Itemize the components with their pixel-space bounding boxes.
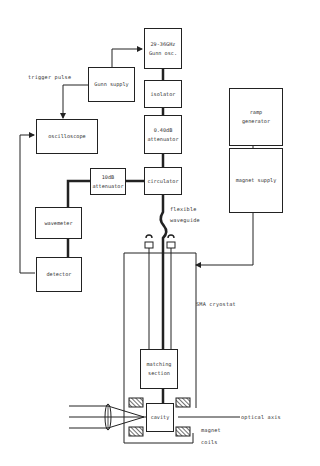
magnet-supply-block: magnet supply	[229, 148, 283, 213]
magnet-coil-icon	[176, 398, 190, 407]
gunn-oscillator-block: 29-36GHz Gunn osc.	[144, 28, 182, 69]
cavity-block: cavity	[146, 403, 174, 432]
magnet-coils-label-2: coils	[201, 439, 218, 445]
wavemeter-block: wavemeter	[35, 207, 82, 239]
cryostat-label: SMA cryostat	[196, 301, 236, 307]
isolator-block: isolator	[144, 80, 182, 108]
trigger-pulse-label: trigger pulse	[28, 74, 71, 80]
flexible-waveguide-label-2: waveguide	[170, 217, 200, 223]
magnet-coil-icon	[176, 427, 190, 436]
magnet-coil-icon	[129, 398, 143, 407]
circulator-block: circulator	[144, 167, 182, 195]
gunn-supply-block: Gunn supply	[88, 67, 135, 102]
supply-to-osc-line	[112, 49, 142, 67]
attenuator-block: 0.40dB attenuator	[144, 115, 182, 154]
flexible-waveguide-label: flexible	[170, 206, 197, 212]
attenuator-10db-block: 10dB attenuator	[90, 168, 126, 195]
ramp-generator-block: ramp generator	[229, 88, 283, 146]
detector-block: detector	[36, 257, 82, 292]
oscilloscope-block: oscilloscope	[36, 119, 98, 154]
optical-axis-label: optical axis	[241, 414, 281, 420]
matching-section-block: matching section	[140, 349, 178, 389]
trigger-pulse-line	[63, 85, 88, 118]
magnet-coil-icon	[129, 427, 143, 436]
magnet-coils-label: magnet	[201, 427, 221, 433]
